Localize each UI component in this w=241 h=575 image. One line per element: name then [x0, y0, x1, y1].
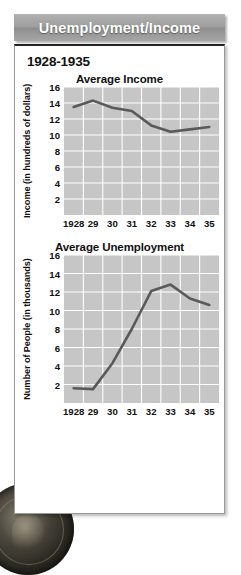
y-tick-label: 2 [55, 194, 60, 205]
x-tick-label: 29 [88, 218, 99, 229]
y-tick-label: 16 [49, 82, 60, 93]
x-tick-label: 30 [107, 406, 118, 417]
y-tick-label: 2 [55, 379, 60, 390]
x-axis-ticks-unemployment: 192829303132333435 [64, 403, 219, 419]
y-tick-label: 14 [49, 268, 60, 279]
x-tick-label: 34 [185, 406, 196, 417]
y-axis-title-unemployment: Number of People (in thousands) [20, 255, 34, 403]
x-tick-label: 1928 [63, 406, 84, 417]
y-tick-label: 8 [55, 324, 60, 335]
chart-average-unemployment: Average Unemployment Number of People (i… [20, 241, 219, 419]
banner-title: Unemployment/Income [14, 14, 225, 41]
x-tick-label: 1928 [63, 218, 84, 229]
coin-bust-detail [12, 514, 43, 553]
x-tick-label: 31 [126, 406, 137, 417]
y-tick-label: 4 [55, 178, 60, 189]
x-tick-label: 29 [88, 406, 99, 417]
x-tick-label: 31 [126, 218, 137, 229]
y-tick-label: 14 [49, 98, 60, 109]
y-tick-label: 6 [55, 162, 60, 173]
y-tick-label: 16 [49, 250, 60, 261]
y-tick-label: 10 [49, 130, 60, 141]
y-tick-label: 10 [49, 305, 60, 316]
y-tick-label: 6 [55, 342, 60, 353]
x-tick-label: 33 [165, 406, 176, 417]
infographic-panel: Unemployment/Income 1928-1935 Average In… [14, 14, 225, 514]
x-tick-label: 34 [185, 218, 196, 229]
x-tick-label: 33 [165, 218, 176, 229]
banner: Unemployment/Income [14, 14, 225, 41]
y-tick-label: 12 [49, 287, 60, 298]
plot-area-unemployment [64, 255, 219, 403]
x-tick-label: 30 [107, 218, 118, 229]
x-tick-label: 35 [204, 218, 215, 229]
x-tick-label: 32 [146, 406, 157, 417]
plot-area-income [64, 87, 219, 215]
chart-average-income: Average Income Income (in hundreds of do… [20, 73, 219, 231]
x-tick-label: 35 [204, 406, 215, 417]
y-tick-label: 12 [49, 114, 60, 125]
chart-card: 1928-1935 Average Income Income (in hund… [14, 44, 225, 514]
date-range-label: 1928-1935 [27, 54, 219, 69]
y-tick-label: 4 [55, 361, 60, 372]
y-axis-title-income: Income (in hundreds of dollars) [20, 87, 34, 215]
y-axis-ticks-unemployment: 161412108642 [34, 255, 64, 403]
x-axis-ticks-income: 192829303132333435 [64, 215, 219, 231]
x-tick-label: 32 [146, 218, 157, 229]
y-tick-label: 8 [55, 146, 60, 157]
y-axis-ticks-income: 161412108642 [34, 87, 64, 215]
